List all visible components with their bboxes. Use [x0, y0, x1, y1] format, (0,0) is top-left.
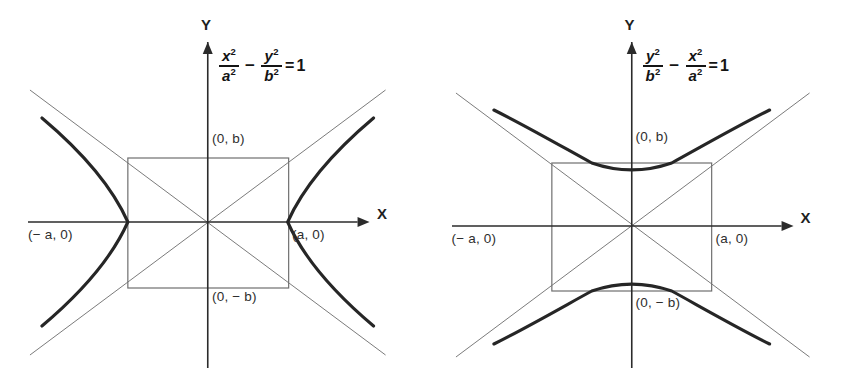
minus-operator: − — [669, 56, 679, 76]
y-axis-label: Y — [625, 17, 635, 32]
equals-sign: = — [709, 57, 719, 75]
equation-horizontal-hyperbola: x2 a2 − y2 b2 = 1 — [218, 48, 306, 84]
y-axis — [626, 42, 636, 368]
panel-horizontal-hyperbola: Y X x2 a2 − y2 b2 = 1 (0, b) (0, − b) (−… — [0, 0, 426, 382]
label-point-0-b: (0, b) — [212, 132, 245, 146]
label-point-0-neg-b: (0, − b) — [636, 296, 681, 310]
fraction-second-denominator: a2 — [686, 68, 706, 84]
exp: 2 — [273, 46, 278, 57]
fraction-first-denominator: a2 — [219, 68, 239, 84]
y-axis — [203, 42, 213, 368]
x-axis-label: X — [377, 206, 387, 221]
label-point-neg-a-0: (− a, 0) — [28, 228, 73, 242]
x-axis-arrow — [781, 221, 793, 231]
fraction-first-numerator: x2 — [219, 48, 239, 64]
asymptote-lines — [455, 93, 809, 357]
fraction-second: x2 a2 — [686, 48, 706, 84]
fraction-first: x2 a2 — [219, 48, 239, 84]
minus-operator: − — [245, 56, 255, 76]
x-axis — [28, 217, 370, 227]
exp: 2 — [274, 66, 279, 77]
right-hand-side: 1 — [297, 57, 306, 75]
x-axis — [451, 221, 793, 231]
fraction-second-numerator: y2 — [262, 48, 282, 64]
label-point-neg-a-0: (− a, 0) — [452, 232, 497, 246]
exp: 2 — [697, 66, 702, 77]
label-point-a-0: (a, 0) — [716, 232, 749, 246]
fraction-first-numerator: y2 — [643, 48, 663, 64]
equals-sign: = — [285, 57, 295, 75]
y-axis-arrow — [203, 42, 213, 54]
exp: 2 — [654, 46, 659, 57]
panel-vertical-hyperbola: Y X y2 b2 − x2 a2 = 1 (0, b) (0, − b) (−… — [426, 0, 851, 382]
hyperbola-figure: Y X x2 a2 − y2 b2 = 1 (0, b) (0, − b) (−… — [0, 0, 851, 382]
exp: 2 — [697, 46, 702, 57]
exp: 2 — [655, 66, 660, 77]
horizontal-hyperbola-plot — [0, 0, 426, 382]
exp: 2 — [231, 66, 236, 77]
fraction-first: y2 b2 — [643, 48, 664, 84]
right-hand-side: 1 — [720, 57, 729, 75]
x-axis-label: X — [801, 210, 811, 225]
fraction-second: y2 b2 — [261, 48, 282, 84]
y-axis-arrow — [626, 42, 636, 54]
vertical-hyperbola-plot — [426, 0, 851, 382]
label-point-0-b: (0, b) — [636, 130, 669, 144]
fraction-second-denominator: b2 — [261, 68, 282, 84]
exp: 2 — [231, 46, 236, 57]
fraction-second-numerator: x2 — [686, 48, 706, 64]
x-axis-arrow — [358, 217, 370, 227]
label-point-a-0: (a, 0) — [292, 228, 325, 242]
equation-vertical-hyperbola: y2 b2 − x2 a2 = 1 — [642, 48, 730, 84]
y-axis-label: Y — [201, 17, 211, 32]
fraction-first-denominator: b2 — [643, 68, 664, 84]
label-point-0-neg-b: (0, − b) — [212, 290, 257, 304]
